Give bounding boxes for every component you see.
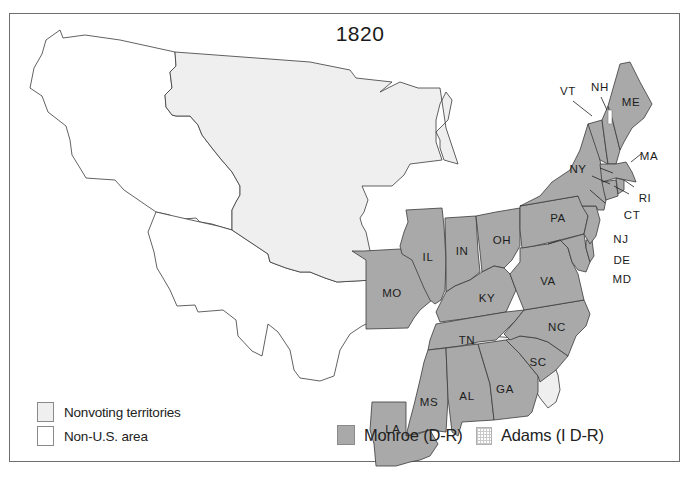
- label-ME: ME: [622, 96, 640, 108]
- swatch-adams: [476, 427, 492, 445]
- label-IN: IN: [456, 245, 469, 257]
- leader-NH: [601, 97, 607, 110]
- legend-nonvoting-item: Nonvoting territories: [37, 402, 181, 422]
- legend-adams-item: Adams (I D-R): [476, 426, 604, 445]
- swatch-non-us: [37, 426, 54, 446]
- nh-adams-sliver: [608, 110, 612, 124]
- label-DE: DE: [613, 254, 630, 266]
- map-title: 1820: [300, 22, 420, 46]
- legend-label-adams: Adams (I D-R): [501, 426, 604, 445]
- legend-non-us-item: Non-U.S. area: [37, 426, 148, 446]
- label-CT: CT: [624, 209, 641, 221]
- label-TN: TN: [459, 334, 476, 346]
- legend-label-non-us: Non-U.S. area: [64, 429, 148, 444]
- leader-VT: [573, 101, 592, 116]
- legend-label-monroe: Monroe (D-R): [364, 426, 462, 445]
- label-NC: NC: [548, 321, 566, 333]
- label-MA: MA: [640, 150, 658, 162]
- label-MO: MO: [382, 287, 402, 299]
- label-NJ: NJ: [613, 233, 628, 245]
- label-OH: OH: [493, 234, 511, 246]
- label-PA: PA: [550, 212, 566, 224]
- state-MS: [406, 348, 448, 436]
- label-IL: IL: [423, 251, 434, 263]
- label-RI: RI: [639, 192, 652, 204]
- legend-label-nonvoting: Nonvoting territories: [64, 405, 181, 420]
- label-KY: KY: [479, 292, 496, 304]
- label-AL: AL: [459, 390, 474, 402]
- label-GA: GA: [496, 383, 514, 395]
- label-MS: MS: [420, 396, 438, 408]
- label-SC: SC: [529, 356, 546, 368]
- label-VA: VA: [540, 275, 556, 287]
- label-MD: MD: [612, 273, 631, 285]
- label-VT: VT: [560, 85, 576, 97]
- swatch-nonvoting: [37, 402, 54, 422]
- legend-monroe-item: Monroe (D-R): [337, 425, 462, 445]
- label-NY: NY: [569, 163, 586, 175]
- label-NH: NH: [591, 81, 609, 93]
- swatch-monroe: [337, 425, 355, 445]
